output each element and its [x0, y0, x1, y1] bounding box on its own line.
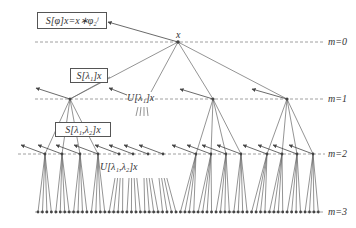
level-label-m0: m=0 — [328, 37, 347, 47]
output-box-s-lambda1: S[λ₁]x — [70, 68, 108, 83]
output-box-s-lambda1-lambda2: S[λ₁,λ₂]x — [55, 122, 111, 137]
output-box-s-phi: S[φ]x=x∗φ₂ʲ — [37, 12, 107, 29]
annotation-u-lambda1: U[λ₁]x — [127, 93, 154, 103]
root-node-label: x — [176, 30, 180, 40]
level-label-m3: m=3 — [328, 207, 347, 217]
level-label-m2: m=2 — [328, 149, 347, 159]
annotation-u-lambda1-lambda2: U[λ₁,λ₂]x — [100, 162, 138, 172]
level-label-m1: m=1 — [328, 94, 347, 104]
